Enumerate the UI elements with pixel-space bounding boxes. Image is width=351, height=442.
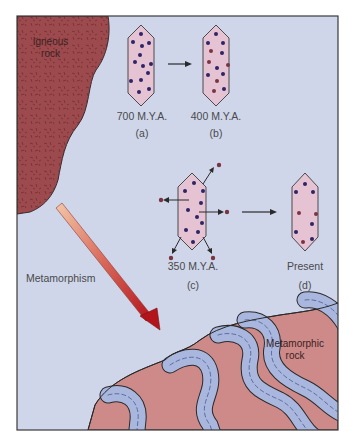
igneous-label-line2: rock bbox=[28, 48, 73, 60]
metamorphic-rock-label: Metamorphic rock bbox=[260, 338, 330, 362]
crystal-a-age: 700 M.Y.A. bbox=[114, 110, 170, 122]
crystal-a-tag: (a) bbox=[114, 127, 170, 139]
crystal-c-age: 350 M.Y.A. bbox=[165, 260, 221, 272]
metamorphism-dating-diagram: Igneous rock 700 M.Y.A. (a) 400 M.Y.A. (… bbox=[0, 0, 351, 442]
crystal-d-tag: (d) bbox=[277, 279, 333, 291]
igneous-rock-label: Igneous rock bbox=[28, 36, 73, 60]
diagram-canvas bbox=[0, 0, 351, 442]
crystal-b bbox=[203, 25, 230, 106]
metamorphic-label-line2: rock bbox=[260, 350, 330, 362]
crystal-d bbox=[292, 173, 318, 251]
metamorphism-label: Metamorphism bbox=[26, 272, 95, 284]
crystal-b-age: 400 M.Y.A. bbox=[188, 110, 244, 122]
crystal-b-tag: (b) bbox=[188, 127, 244, 139]
crystal-d-age: Present bbox=[277, 260, 333, 272]
crystal-a bbox=[128, 25, 154, 106]
igneous-label-line1: Igneous bbox=[28, 36, 73, 48]
crystal-c-tag: (c) bbox=[165, 279, 221, 291]
metamorphic-label-line1: Metamorphic bbox=[260, 338, 330, 350]
